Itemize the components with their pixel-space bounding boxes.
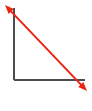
- diagram-svg: [0, 0, 92, 111]
- diagram-canvas: [0, 0, 92, 111]
